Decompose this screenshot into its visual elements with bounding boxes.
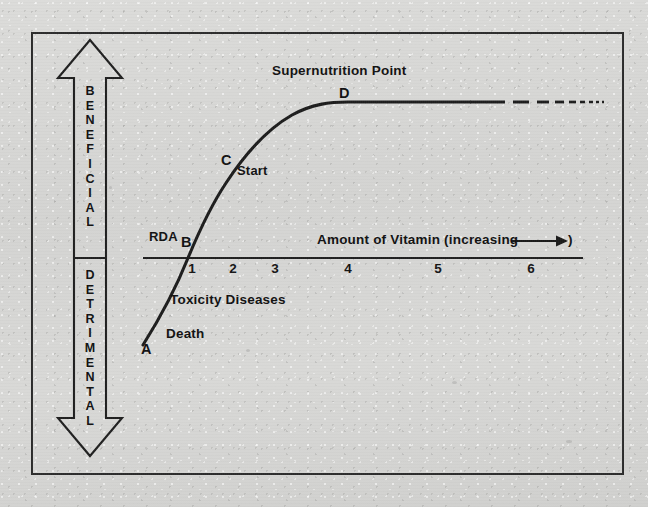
point-b-label: B	[181, 234, 192, 250]
x-tick-3: 3	[265, 261, 285, 276]
supernutrition-point-label: Supernutrition Point	[272, 63, 407, 78]
point-a-label: A	[141, 341, 152, 357]
start-label: Start	[237, 163, 268, 178]
detrimental-letter: T	[77, 297, 103, 312]
toxicity-diseases-label: Toxicity Diseases	[170, 292, 286, 307]
beneficial-letter: L	[77, 215, 103, 230]
beneficial-letter: A	[77, 201, 103, 216]
death-label: Death	[166, 326, 205, 341]
beneficial-label: B E N E F I C I A L	[77, 84, 103, 230]
detrimental-letter: E	[77, 356, 103, 371]
detrimental-label: D E T R I M E N T A L	[77, 268, 103, 429]
x-tick-2: 2	[223, 261, 243, 276]
x-tick-5: 5	[428, 261, 448, 276]
detrimental-letter: D	[77, 268, 103, 283]
beneficial-letter: B	[77, 84, 103, 99]
x-axis-title-paren: )	[568, 232, 573, 247]
x-tick-1: 1	[182, 261, 202, 276]
detrimental-letter: M	[77, 341, 103, 356]
point-c-label: C	[221, 152, 232, 168]
beneficial-letter: N	[77, 113, 103, 128]
response-curve-solid	[143, 102, 470, 345]
detrimental-letter: N	[77, 370, 103, 385]
x-tick-6: 6	[521, 261, 541, 276]
rda-label: RDA	[149, 229, 178, 244]
figure-page: B E N E F I C I A L D E T R I M E N T A …	[0, 0, 648, 507]
beneficial-letter: C	[77, 172, 103, 187]
detrimental-letter: I	[77, 326, 103, 341]
beneficial-letter: I	[77, 186, 103, 201]
detrimental-letter: E	[77, 283, 103, 298]
beneficial-letter: I	[77, 157, 103, 172]
beneficial-letter: E	[77, 99, 103, 114]
x-axis-title: Amount of Vitamin (increasing	[317, 232, 518, 247]
detrimental-letter: L	[77, 414, 103, 429]
detrimental-letter: T	[77, 385, 103, 400]
beneficial-letter: F	[77, 142, 103, 157]
beneficial-letter: E	[77, 128, 103, 143]
x-tick-4: 4	[338, 261, 358, 276]
detrimental-letter: R	[77, 312, 103, 327]
increasing-arrow-head	[556, 236, 568, 247]
detrimental-letter: A	[77, 399, 103, 414]
point-d-label: D	[339, 85, 350, 101]
